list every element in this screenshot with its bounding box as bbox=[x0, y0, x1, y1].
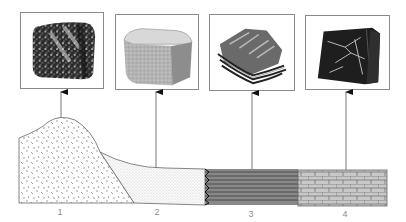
unit-4-brick bbox=[298, 170, 387, 206]
rock-diagram: 1 2 3 4 bbox=[0, 0, 406, 222]
unit-label-4: 4 bbox=[342, 209, 347, 219]
unit-label-3: 3 bbox=[248, 209, 253, 219]
unit-label-2: 2 bbox=[154, 207, 159, 217]
cross-section bbox=[0, 0, 406, 222]
unit-3-slate bbox=[205, 169, 298, 205]
unit-label-1: 1 bbox=[57, 207, 62, 217]
